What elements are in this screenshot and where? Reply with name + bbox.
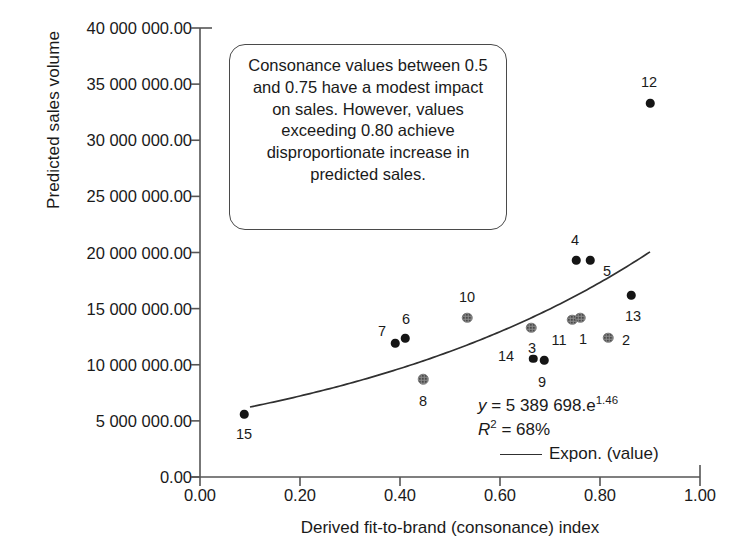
x-tick-label: 0.00 (160, 487, 240, 504)
x-tick-label: 0.60 (460, 487, 540, 504)
x-axis-title: Derived fit-to-brand (consonance) index (200, 518, 700, 538)
data-point (540, 356, 549, 365)
data-point (391, 339, 400, 348)
data-point-label: 1 (579, 331, 587, 346)
data-point-label: 9 (538, 375, 546, 390)
data-point (627, 291, 636, 300)
data-point (462, 312, 473, 323)
data-point-label: 5 (603, 264, 611, 279)
trendline-legend-swatch (500, 454, 542, 455)
data-point (529, 354, 538, 363)
data-point-label: 11 (551, 333, 566, 348)
scatter-chart: Predicted sales volume 0.005 000 000.001… (0, 0, 729, 556)
legend-label: Expon. (value) (549, 444, 659, 464)
data-point-label: 4 (571, 233, 579, 248)
x-tick-label: 0.20 (260, 487, 340, 504)
data-point-label: 6 (402, 312, 410, 327)
data-point-label: 2 (622, 333, 630, 348)
data-point (526, 322, 537, 333)
data-point (572, 256, 581, 265)
data-point-label: 13 (625, 309, 641, 324)
data-point-label: 14 (498, 348, 514, 363)
data-point-label: 8 (419, 394, 427, 409)
data-point (418, 374, 429, 385)
x-tick-label: 1.00 (660, 487, 729, 504)
trendline-equation: y = 5 389 698.e1.46 (478, 393, 618, 417)
r-squared-label: R2 = 68% (478, 417, 550, 441)
legend: Expon. (value) (500, 444, 659, 464)
data-point-label: 15 (236, 427, 252, 442)
x-tick-label: 0.40 (360, 487, 440, 504)
data-point-label: 3 (528, 340, 536, 355)
data-point-label: 12 (641, 75, 657, 90)
annotation-callout: Consonance values between 0.5 and 0.75 h… (229, 44, 507, 230)
data-point (646, 99, 655, 108)
data-point (603, 333, 614, 344)
data-point (240, 410, 249, 419)
data-point (401, 334, 410, 343)
data-point (575, 312, 586, 323)
data-point (586, 256, 595, 265)
data-point-label: 7 (378, 324, 386, 339)
data-point-label: 10 (459, 289, 475, 304)
trendline-curve (250, 252, 650, 407)
x-tick-label: 0.80 (560, 487, 640, 504)
